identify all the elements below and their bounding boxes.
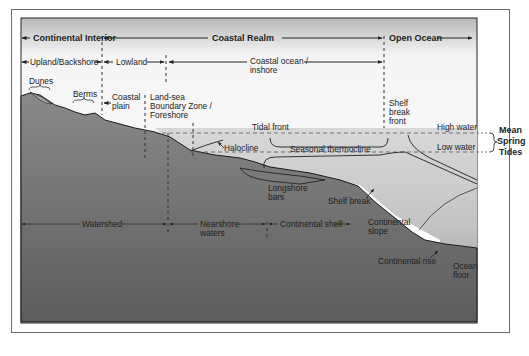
label-tides: Tides xyxy=(499,147,522,157)
label-tidal-front: Tidal front xyxy=(252,122,290,132)
label-seasonal-thermocline: Seasonal thermocline xyxy=(290,144,371,154)
label-coastal-plain-2: plain xyxy=(112,101,130,111)
label-upland-backshore: Upland/Backshore xyxy=(30,57,99,67)
label-dunes: Dunes xyxy=(29,76,53,86)
label-spring: Spring xyxy=(497,136,526,146)
label-coastal-ocean-2: inshore xyxy=(250,65,278,75)
label-shelf-break-front-3: front xyxy=(389,116,406,126)
label-open-ocean: Open Ocean xyxy=(389,33,442,43)
label-watershed: Watershed xyxy=(82,219,123,229)
label-ocean-floor-2: floor xyxy=(453,270,470,280)
label-continental-shelf: Continental shelf xyxy=(280,219,343,229)
label-continental-slope-2: slope xyxy=(368,226,388,236)
coastal-zone-diagram: Continental Interior Coastal Realm Open … xyxy=(0,0,529,356)
label-berms: Berms xyxy=(73,89,97,99)
tides-brace xyxy=(490,133,497,152)
label-high-water: High water xyxy=(437,122,477,132)
label-continental-rise: Continental rise xyxy=(378,256,437,266)
label-coastal-realm: Coastal Realm xyxy=(212,33,274,43)
label-shelf-break: Shelf break xyxy=(328,196,371,206)
label-lowland: Lowland xyxy=(116,57,148,67)
label-longshore-bars-2: bars xyxy=(268,192,284,202)
label-nearshore-2: waters xyxy=(199,228,225,238)
label-continental-interior: Continental Interior xyxy=(33,33,116,43)
label-land-sea-3: Foreshore xyxy=(150,110,189,120)
label-halocline: Halocline xyxy=(224,143,259,153)
label-low-water: Low water xyxy=(437,142,475,152)
label-mean: Mean xyxy=(499,125,522,135)
